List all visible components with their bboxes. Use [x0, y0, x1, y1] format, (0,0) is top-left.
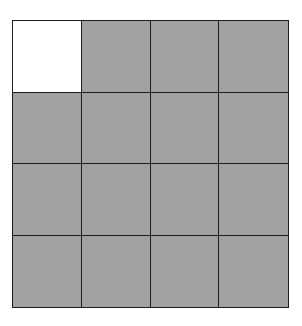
grid-cell-filled [151, 93, 220, 165]
grid-cell-filled [219, 236, 288, 308]
grid-cell-filled [151, 21, 220, 93]
grid-cell-filled [82, 93, 151, 165]
grid-cell-filled [82, 236, 151, 308]
grid-cell-filled [82, 21, 151, 93]
grid-cell-filled [13, 93, 82, 165]
grid-diagram [12, 20, 289, 308]
grid-cell-filled [151, 164, 220, 236]
grid-cell-filled [219, 93, 288, 165]
grid-cell-filled [151, 236, 220, 308]
grid-cell-filled [13, 236, 82, 308]
grid-cell-empty [13, 21, 82, 93]
grid-cell-filled [13, 164, 82, 236]
grid-cell-filled [219, 164, 288, 236]
grid-cell-filled [82, 164, 151, 236]
grid-cell-filled [219, 21, 288, 93]
